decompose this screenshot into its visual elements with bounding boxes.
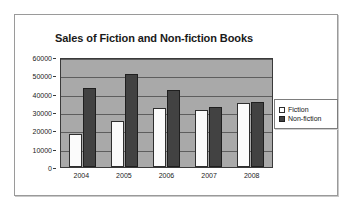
y-axis: 0100002000030000400005000060000 bbox=[15, 58, 56, 168]
bar-group bbox=[188, 59, 230, 167]
chart-frame: Sales of Fiction and Non-fiction Books 0… bbox=[14, 14, 338, 196]
legend-swatch-icon bbox=[279, 116, 285, 122]
bar-group bbox=[61, 59, 103, 167]
y-axis-tick-mark bbox=[53, 113, 56, 114]
bar-non-fiction-2007 bbox=[209, 107, 222, 168]
legend-swatch-icon bbox=[279, 107, 285, 113]
bar-non-fiction-2004 bbox=[83, 88, 96, 167]
y-axis-tick-label: 0 bbox=[48, 165, 52, 172]
x-axis: 20042005200620072008 bbox=[60, 172, 273, 179]
legend-item: Fiction bbox=[279, 106, 333, 113]
bar-fiction-2004 bbox=[69, 134, 82, 167]
y-axis-tick-mark bbox=[53, 168, 56, 169]
chart-title: Sales of Fiction and Non-fiction Books bbox=[15, 32, 293, 44]
y-axis-tick-label: 40000 bbox=[33, 91, 52, 98]
y-axis-tick-label: 30000 bbox=[33, 110, 52, 117]
y-axis-tick-mark bbox=[53, 131, 56, 132]
x-axis-tick-label: 2004 bbox=[60, 172, 103, 179]
bar-non-fiction-2006 bbox=[167, 90, 180, 167]
legend-item: Non-fiction bbox=[279, 115, 333, 122]
x-axis-tick-label: 2007 bbox=[188, 172, 231, 179]
bar-fiction-2007 bbox=[195, 110, 208, 167]
x-axis-tick-label: 2006 bbox=[145, 172, 188, 179]
legend-label: Fiction bbox=[288, 106, 309, 113]
bar-group bbox=[103, 59, 145, 167]
y-axis-tick-mark bbox=[53, 150, 56, 151]
y-axis-tick-label: 50000 bbox=[33, 73, 52, 80]
y-axis-tick-mark bbox=[53, 76, 56, 77]
y-axis-tick-label: 20000 bbox=[33, 128, 52, 135]
bar-fiction-2006 bbox=[153, 108, 166, 167]
legend-label: Non-fiction bbox=[288, 115, 321, 122]
bar-non-fiction-2005 bbox=[125, 74, 138, 168]
bar-group bbox=[145, 59, 187, 167]
bar-non-fiction-2008 bbox=[251, 102, 264, 167]
x-axis-tick-label: 2005 bbox=[103, 172, 146, 179]
plot-area bbox=[60, 58, 273, 168]
bar-fiction-2008 bbox=[237, 103, 250, 167]
y-axis-tick-label: 60000 bbox=[33, 55, 52, 62]
chart-legend: FictionNon-fiction bbox=[274, 99, 338, 129]
y-axis-tick-mark bbox=[53, 95, 56, 96]
bar-fiction-2005 bbox=[111, 121, 124, 167]
y-axis-tick-label: 10000 bbox=[33, 146, 52, 153]
bar-group bbox=[230, 59, 272, 167]
bar-groups bbox=[61, 59, 272, 167]
y-axis-tick-mark bbox=[53, 58, 56, 59]
x-axis-tick-label: 2008 bbox=[230, 172, 273, 179]
